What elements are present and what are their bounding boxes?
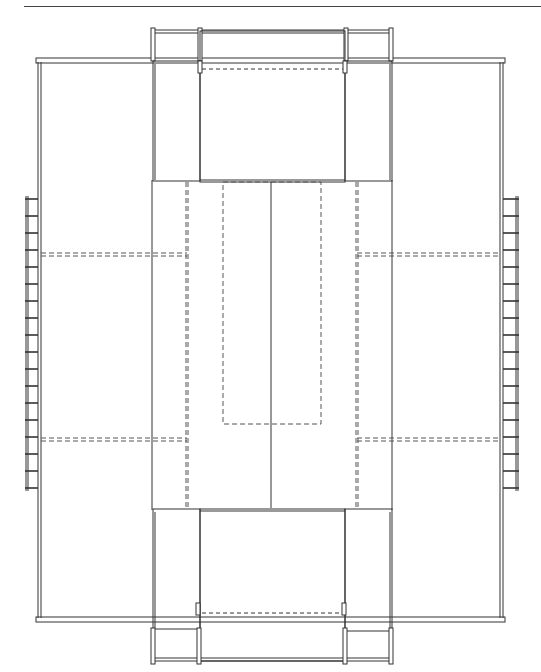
top-wing — [151, 28, 393, 182]
left-ladder — [25, 196, 38, 491]
floor-plan-drawing — [0, 0, 541, 672]
bottom-wing — [151, 509, 393, 664]
right-ladder — [503, 196, 519, 491]
